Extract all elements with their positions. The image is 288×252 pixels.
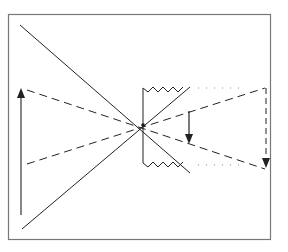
solid-ray-descending bbox=[20, 25, 190, 173]
dashed-ray-lower bbox=[27, 88, 265, 164]
aperture-zigzag-top bbox=[143, 87, 183, 92]
image-arrowhead-near-icon bbox=[185, 134, 193, 144]
solid-ray-ascending bbox=[22, 87, 190, 229]
dashed-ray-upper bbox=[27, 90, 265, 169]
diagram-canvas bbox=[0, 0, 288, 252]
image-arrowhead-far-icon bbox=[262, 158, 270, 168]
ray-diagram bbox=[0, 0, 288, 252]
aperture-zigzag-bottom bbox=[143, 162, 183, 167]
object-arrowhead-icon bbox=[17, 88, 25, 98]
